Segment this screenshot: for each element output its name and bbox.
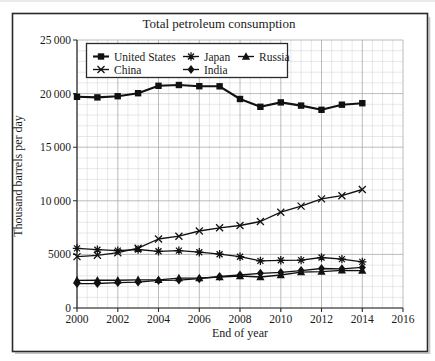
data-point-marker — [317, 253, 325, 261]
y-tick-label: 0 — [65, 302, 71, 314]
y-tick-label: 20 000 — [40, 88, 71, 100]
legend-marker — [98, 53, 104, 59]
x-tick-label: 2014 — [351, 313, 374, 325]
data-point-marker — [73, 244, 81, 252]
data-point-marker — [278, 99, 284, 105]
y-tick-label: 15 000 — [40, 141, 71, 153]
data-point-marker — [196, 83, 202, 89]
y-tick-label: 25 000 — [40, 34, 71, 46]
y-tick-label: 5000 — [48, 248, 71, 260]
y-tick-label: 10 000 — [40, 195, 71, 207]
data-point-marker — [155, 83, 161, 89]
legend: United StatesJapanRussiaChinaIndia — [87, 44, 290, 78]
data-point-marker — [175, 246, 183, 254]
data-point-marker — [359, 100, 365, 106]
data-point-marker — [195, 248, 203, 256]
data-point-marker — [74, 94, 80, 100]
data-point-marker — [236, 253, 244, 261]
x-axis-label: End of year — [212, 326, 268, 340]
x-tick-label: 2016 — [392, 313, 415, 325]
data-point-marker — [297, 256, 305, 264]
x-tick-label: 2012 — [310, 313, 333, 325]
legend-label: Russia — [259, 51, 290, 63]
chart-title: Total petroleum consumption — [143, 16, 296, 31]
scan-artifact — [0, 0, 435, 2]
x-tick-label: 2006 — [188, 313, 211, 325]
legend-marker — [187, 52, 195, 60]
data-point-marker — [338, 255, 346, 263]
legend-label: China — [114, 64, 141, 76]
data-point-marker — [318, 107, 324, 113]
x-tick-label: 2000 — [66, 313, 89, 325]
data-point-marker — [339, 102, 345, 108]
data-point-marker — [298, 102, 304, 108]
x-tick-label: 2002 — [106, 313, 129, 325]
data-point-marker — [216, 83, 222, 89]
data-point-marker — [257, 104, 263, 110]
x-tick-label: 2008 — [229, 313, 252, 325]
x-tick-label: 2010 — [269, 313, 292, 325]
legend-label: Japan — [204, 51, 230, 64]
legend-label: United States — [114, 51, 176, 63]
data-point-marker — [237, 96, 243, 102]
data-point-marker — [256, 257, 264, 265]
legend-label: India — [204, 64, 228, 76]
data-point-marker — [154, 247, 162, 255]
data-point-marker — [94, 94, 100, 100]
x-tick-label: 2004 — [147, 313, 170, 325]
chart-canvas: 2000200220042006200820102012201420160500… — [0, 0, 435, 361]
data-point-marker — [215, 250, 223, 258]
y-axis-label: Thousand barrels per day — [11, 115, 25, 237]
data-point-marker — [135, 90, 141, 96]
data-point-marker — [277, 256, 285, 264]
data-point-marker — [176, 82, 182, 88]
figure: 2000200220042006200820102012201420160500… — [0, 0, 435, 361]
data-point-marker — [115, 93, 121, 99]
